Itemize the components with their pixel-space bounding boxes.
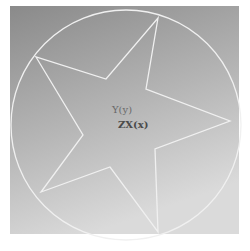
- y-axis-label: Y(y): [111, 104, 132, 115]
- zx-axis-label: ZX(x): [118, 119, 148, 130]
- diagram-canvas[interactable]: Y(y) ZX(x): [0, 0, 250, 251]
